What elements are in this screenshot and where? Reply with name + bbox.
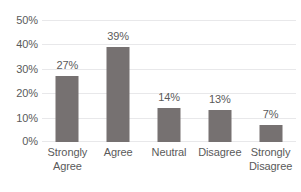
x-label-line2: Agree	[42, 160, 93, 174]
y-tick-0: 0%	[0, 136, 38, 147]
plot-area: 27% 39% 14% 13% 7%	[42, 20, 296, 142]
x-label-agree: Agree	[93, 146, 144, 160]
y-tick-40: 40%	[0, 39, 38, 50]
y-tick-50: 50%	[0, 15, 38, 26]
bar-value-strongly-disagree: 7%	[263, 109, 279, 120]
bar-chart: 27% 39% 14% 13% 7% 50% 40% 30% 20% 10% 0…	[0, 0, 301, 192]
bar-value-agree: 39%	[107, 31, 129, 42]
table-row[interactable]	[259, 125, 282, 142]
x-label-line1: Strongly	[42, 146, 93, 160]
x-label-strongly-agree: Strongly Agree	[42, 146, 93, 173]
x-label-strongly-disagree: Strongly Disagree	[245, 146, 296, 173]
x-label-line2: Disagree	[245, 160, 296, 174]
y-tick-20: 20%	[0, 88, 38, 99]
bar-value-neutral: 14%	[158, 92, 180, 103]
table-row[interactable]	[56, 76, 79, 142]
bar-slot-strongly-agree: 27%	[42, 20, 93, 142]
y-tick-10: 10%	[0, 113, 38, 124]
x-label-neutral: Neutral	[144, 146, 195, 160]
x-axis: Strongly Agree Agree Neutral Disagree St…	[42, 146, 296, 190]
bar-slot-disagree: 13%	[194, 20, 245, 142]
table-row[interactable]	[208, 110, 231, 142]
bar-value-strongly-agree: 27%	[57, 60, 79, 71]
table-row[interactable]	[107, 47, 130, 142]
x-label-line1: Agree	[93, 146, 144, 160]
y-tick-30: 30%	[0, 64, 38, 75]
y-axis: 50% 40% 30% 20% 10% 0%	[0, 20, 38, 142]
bar-value-disagree: 13%	[209, 94, 231, 105]
table-row[interactable]	[157, 108, 180, 142]
x-label-line1: Strongly	[245, 146, 296, 160]
bar-slot-agree: 39%	[93, 20, 144, 142]
x-label-disagree: Disagree	[194, 146, 245, 160]
bar-slot-strongly-disagree: 7%	[245, 20, 296, 142]
x-label-line1: Disagree	[194, 146, 245, 160]
x-label-line1: Neutral	[144, 146, 195, 160]
bar-slot-neutral: 14%	[144, 20, 195, 142]
